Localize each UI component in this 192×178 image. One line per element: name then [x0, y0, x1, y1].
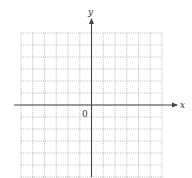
coordinate-plane: x y 0	[0, 0, 192, 178]
origin-label: 0	[82, 109, 88, 119]
y-axis-label: y	[87, 7, 94, 17]
x-axis-label: x	[180, 100, 185, 110]
